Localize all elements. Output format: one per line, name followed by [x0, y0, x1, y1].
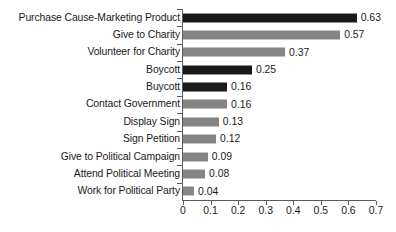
bar-row: Boycott0.25 — [0, 61, 396, 78]
bar-value-label: 0.08 — [209, 169, 229, 179]
bar-with-value: 0.13 — [183, 117, 243, 126]
y-axis-tick-mark — [177, 165, 182, 166]
bar — [183, 117, 219, 126]
bar-rows-container: Purchase Cause-Marketing Product0.63Give… — [0, 9, 396, 200]
plot-area: Purchase Cause-Marketing Product0.63Give… — [0, 0, 396, 232]
x-axis-tick-label: 0.4 — [286, 206, 300, 216]
bar-value-label: 0.63 — [361, 12, 381, 22]
bar-with-value: 0.63 — [183, 13, 381, 22]
bar-with-value: 0.57 — [183, 31, 364, 40]
bar-with-value: 0.12 — [183, 135, 240, 144]
bar-row: Give to Political Campaign0.09 — [0, 148, 396, 165]
bar-with-value: 0.16 — [183, 100, 251, 109]
category-label: Buycott — [146, 82, 180, 92]
x-axis-ticks: 00.10.20.30.40.50.60.7 — [0, 200, 396, 230]
bar — [183, 83, 227, 92]
bar-value-label: 0.12 — [220, 134, 240, 144]
bar — [183, 48, 285, 57]
y-axis-tick-mark — [177, 96, 182, 97]
bar-row: Buycott0.16 — [0, 78, 396, 95]
category-label: Sign Petition — [123, 134, 180, 144]
y-axis-tick-mark — [177, 78, 182, 79]
bar-row: Contact Government0.16 — [0, 96, 396, 113]
bar-value-label: 0.25 — [256, 65, 276, 75]
bar-row: Volunteer for Charity0.37 — [0, 44, 396, 61]
category-label: Boycott — [146, 65, 180, 75]
bar-row: Attend Political Meeting0.08 — [0, 165, 396, 182]
bar — [183, 65, 252, 74]
bar-with-value: 0.25 — [183, 65, 276, 74]
category-label: Give to Charity — [113, 30, 180, 40]
bar — [183, 152, 208, 161]
bar — [183, 187, 194, 196]
x-axis-tick-label: 0.7 — [369, 206, 383, 216]
y-axis-tick-mark — [177, 61, 182, 62]
y-axis-tick-mark — [177, 183, 182, 184]
bar-value-label: 0.16 — [231, 99, 251, 109]
category-label: Give to Political Campaign — [61, 151, 180, 161]
x-axis-tick-label: 0.6 — [341, 206, 355, 216]
bar-row: Work for Political Party0.04 — [0, 183, 396, 200]
y-axis-tick-mark — [177, 44, 182, 45]
bar — [183, 31, 340, 40]
category-label: Attend Political Meeting — [74, 169, 180, 179]
category-label: Contact Government — [86, 99, 180, 109]
bar-with-value: 0.37 — [183, 48, 309, 57]
bar-value-label: 0.09 — [212, 151, 232, 161]
category-label: Work for Political Party — [78, 186, 181, 196]
bar — [183, 100, 227, 109]
category-label: Purchase Cause-Marketing Product — [19, 12, 180, 22]
bar-with-value: 0.09 — [183, 152, 232, 161]
bar-value-label: 0.37 — [289, 47, 309, 57]
bar-with-value: 0.08 — [183, 169, 229, 178]
y-axis-tick-mark — [177, 148, 182, 149]
category-label: Volunteer for Charity — [87, 47, 180, 57]
bar-with-value: 0.16 — [183, 83, 251, 92]
bar — [183, 13, 357, 22]
category-label: Display Sign — [123, 117, 180, 127]
bar — [183, 135, 216, 144]
bar-row: Give to Charity0.57 — [0, 26, 396, 43]
x-axis-tick-label: 0.3 — [258, 206, 272, 216]
bar-value-label: 0.57 — [344, 30, 364, 40]
x-axis-tick-label: 0.1 — [203, 206, 217, 216]
bar-value-label: 0.16 — [231, 82, 251, 92]
bar-value-label: 0.13 — [223, 117, 243, 127]
y-axis-tick-mark — [177, 26, 182, 27]
x-axis-tick-label: 0 — [180, 206, 186, 216]
x-axis-tick-label: 0.5 — [314, 206, 328, 216]
bar-chart: Purchase Cause-Marketing Product0.63Give… — [0, 0, 396, 232]
bar-with-value: 0.04 — [183, 187, 218, 196]
bar-row: Purchase Cause-Marketing Product0.63 — [0, 9, 396, 26]
bar-row: Sign Petition0.12 — [0, 131, 396, 148]
bar-row: Display Sign0.13 — [0, 113, 396, 130]
bar — [183, 169, 205, 178]
y-axis-tick-mark — [177, 9, 182, 10]
bar-value-label: 0.04 — [198, 186, 218, 196]
y-axis-tick-mark — [177, 113, 182, 114]
x-axis-tick-label: 0.2 — [231, 206, 245, 216]
y-axis-tick-mark — [177, 131, 182, 132]
